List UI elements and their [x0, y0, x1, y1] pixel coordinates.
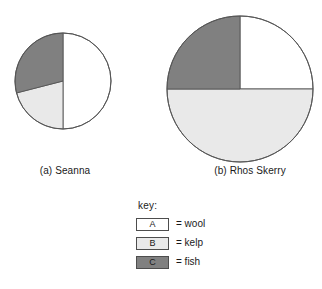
- pie-slice-wool: [63, 33, 111, 129]
- legend-row-wool: A = wool: [136, 216, 256, 232]
- pie-slice-fish: [167, 16, 240, 89]
- legend-label-kelp: = kelp: [176, 237, 203, 249]
- pie-chart-rhos-skerry: [165, 14, 315, 164]
- pie-chart-seanna-caption: (a) Seanna: [0, 165, 130, 177]
- legend-swatch-kelp: B: [136, 237, 169, 250]
- pie-chart-rhos-skerry-svg: [165, 14, 315, 164]
- pie-chart-seanna: [13, 31, 113, 131]
- legend-swatch-label-c: C: [149, 257, 156, 268]
- legend-label-fish: = fish: [176, 256, 200, 268]
- legend-swatch-fish: C: [136, 256, 169, 269]
- chart-legend: key: A = wool B = kelp C = fish: [136, 200, 256, 273]
- pie-slice-kelp: [167, 89, 313, 162]
- pie-slice-wool: [240, 16, 313, 89]
- pie-chart-figure: (a) Seanna (b) Rhos Skerry key: A = wool…: [0, 0, 322, 289]
- legend-row-kelp: B = kelp: [136, 235, 256, 251]
- legend-row-fish: C = fish: [136, 254, 256, 270]
- legend-swatch-label-b: B: [149, 238, 155, 249]
- legend-title: key:: [138, 200, 256, 212]
- pie-chart-seanna-svg: [13, 31, 113, 131]
- legend-swatch-wool: A: [136, 218, 169, 231]
- pie-chart-rhos-skerry-caption: (b) Rhos Skerry: [175, 165, 322, 177]
- legend-swatch-label-a: A: [149, 219, 155, 230]
- legend-label-wool: = wool: [176, 218, 205, 230]
